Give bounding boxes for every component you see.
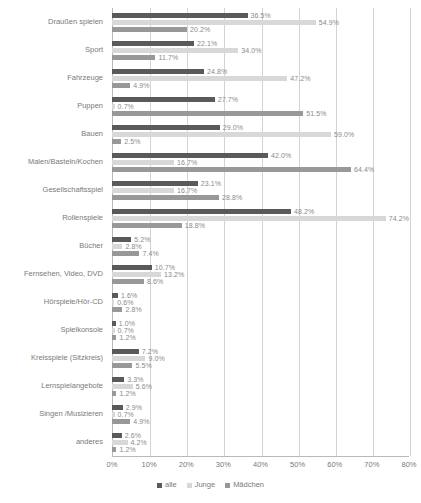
category-axis: Draußen spielenSportFahrzeugePuppenBauen… [0, 8, 108, 456]
bar-junge [112, 216, 386, 221]
bar-alle [112, 97, 215, 102]
bar-line: 2.6% [112, 433, 409, 438]
bar-junge [112, 76, 287, 81]
bar-madchen [112, 111, 303, 116]
bar-value-label: 16.7% [177, 159, 197, 166]
bar-line: 59.0% [112, 132, 409, 137]
bar-group: 27.7%0.7%51.5% [112, 92, 409, 120]
bar-value-label: 34.0% [241, 47, 261, 54]
bar-value-label: 0.7% [118, 103, 134, 110]
bar-alle [112, 153, 268, 158]
bar-value-label: 54.9% [319, 19, 339, 26]
bar-value-label: 24.8% [207, 68, 227, 75]
category-label: Lernspielangebote [0, 372, 108, 400]
bar-line: 36.5% [112, 13, 409, 18]
category-label: anderes [0, 428, 108, 456]
bar-madchen [112, 195, 219, 200]
bar-value-label: 29.0% [223, 124, 243, 131]
bar-junge [112, 384, 133, 389]
bar-value-label: 0.6% [117, 299, 133, 306]
bar-madchen [112, 223, 182, 228]
bar-value-label: 5.5% [135, 362, 151, 369]
bar-line: 22.1% [112, 41, 409, 46]
bar-line: 27.7% [112, 97, 409, 102]
legend-swatch-icon [157, 483, 162, 488]
x-axis-tick-label: 80% [401, 460, 416, 469]
category-label: Rollenspiele [0, 204, 108, 232]
bar-madchen [112, 391, 116, 396]
bar-value-label: 4.9% [133, 82, 149, 89]
bar-group: 1.6%0.6%2.8% [112, 288, 409, 316]
bar-alle [112, 293, 118, 298]
bar-madchen [112, 307, 122, 312]
x-axis-tick-label: 40% [253, 460, 268, 469]
bar-alle [112, 41, 194, 46]
bar-line: 10.7% [112, 265, 409, 270]
legend-label: Junge [195, 481, 215, 489]
bar-line: 4.2% [112, 440, 409, 445]
bar-line: 5.5% [112, 363, 409, 368]
bar-value-label: 47.2% [290, 75, 310, 82]
legend-label: Mädchen [233, 481, 264, 489]
bar-line: 54.9% [112, 20, 409, 25]
bar-alle [112, 237, 131, 242]
bar-value-label: 36.5% [251, 12, 271, 19]
bar-line: 2.8% [112, 307, 409, 312]
category-label: Puppen [0, 92, 108, 120]
bar-junge [112, 244, 122, 249]
legend-item-madchen[interactable]: Mädchen [225, 481, 264, 489]
bar-alle [112, 405, 123, 410]
bar-value-label: 1.2% [119, 390, 135, 397]
bar-value-label: 48.2% [294, 208, 314, 215]
bar-group: 10.7%13.2%8.6% [112, 260, 409, 288]
bar-madchen [112, 335, 116, 340]
bar-group: 22.1%34.0%11.7% [112, 36, 409, 64]
bar-group: 2.6%4.2%1.2% [112, 428, 409, 456]
x-axis-tick-label: 20% [179, 460, 194, 469]
bar-value-label: 64.4% [354, 166, 374, 173]
bar-line: 0.7% [112, 328, 409, 333]
bar-value-label: 7.2% [142, 348, 158, 355]
bar-alle [112, 209, 291, 214]
bar-group: 3.3%5.6%1.2% [112, 372, 409, 400]
category-label: Fernsehen, Video, DVD [0, 260, 108, 288]
bar-value-label: 74.2% [389, 215, 409, 222]
bar-line: 51.5% [112, 111, 409, 116]
bar-line: 7.2% [112, 349, 409, 354]
bar-value-label: 1.0% [119, 320, 135, 327]
category-label: Bücher [0, 232, 108, 260]
bar-junge [112, 412, 115, 417]
bar-alle [112, 13, 248, 18]
bar-value-label: 1.2% [119, 446, 135, 453]
bar-line: 2.5% [112, 139, 409, 144]
bar-line: 29.0% [112, 125, 409, 130]
legend-item-junge[interactable]: Junge [187, 481, 215, 489]
category-label: Singen /Musizieren [0, 400, 108, 428]
bar-junge [112, 328, 115, 333]
x-axis-tick-label: 70% [364, 460, 379, 469]
bar-line: 5.2% [112, 237, 409, 242]
bar-line: 2.9% [112, 405, 409, 410]
bar-value-label: 18.8% [185, 222, 205, 229]
bar-line: 13.2% [112, 272, 409, 277]
bar-value-label: 28.8% [222, 194, 242, 201]
bar-line: 1.2% [112, 447, 409, 452]
bar-group: 24.8%47.2%4.9% [112, 64, 409, 92]
bar-line: 11.7% [112, 55, 409, 60]
bar-value-label: 4.9% [133, 418, 149, 425]
bar-value-label: 0.7% [118, 411, 134, 418]
bar-value-label: 10.7% [155, 264, 175, 271]
bar-junge [112, 356, 145, 361]
legend-item-alle[interactable]: alle [157, 481, 177, 489]
bar-line: 5.6% [112, 384, 409, 389]
bar-line: 8.6% [112, 279, 409, 284]
bar-madchen [112, 167, 351, 172]
bar-madchen [112, 279, 144, 284]
bar-value-label: 8.6% [147, 278, 163, 285]
bar-group: 29.0%59.0%2.5% [112, 120, 409, 148]
bar-alle [112, 349, 139, 354]
bar-value-label: 16.7% [177, 187, 197, 194]
bar-value-label: 5.2% [134, 236, 150, 243]
bar-junge [112, 440, 128, 445]
bar-madchen [112, 363, 132, 368]
